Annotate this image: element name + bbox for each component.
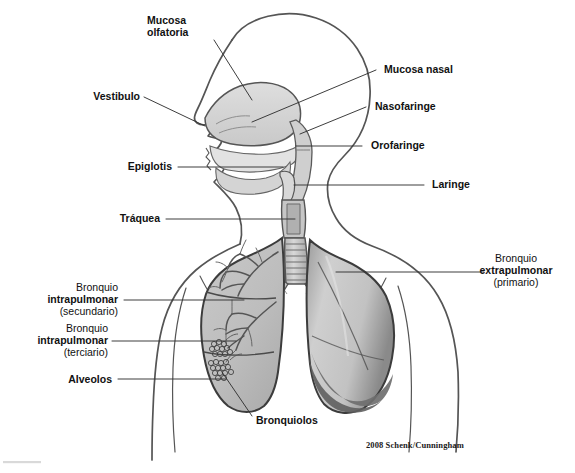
label-orofaringe: Orofaringe [371, 139, 425, 151]
label-nasofaringe: Nasofaringe [375, 100, 436, 112]
label-mucosa-olfatoria: Mucosa olfatoria [147, 14, 188, 38]
label-line: Laringe [432, 178, 470, 190]
label-traquea: Tráquea [48, 212, 160, 224]
label-line: intrapulmonar [14, 293, 118, 305]
label-alveolos: Alveolos [10, 373, 112, 385]
label-line: Mucosa nasal [384, 63, 453, 75]
label-bronquio-intrapulmonar-terciario: Bronquio intrapulmonar (terciario) [4, 322, 108, 358]
footer-rule [3, 461, 41, 463]
label-line: olfatoria [147, 26, 188, 38]
label-bronquiolos: Bronquiolos [256, 414, 318, 426]
label-bronquio-extrapulmonar: Bronquio extrapulmonar (primario) [462, 252, 570, 288]
label-line: Orofaringe [371, 139, 425, 151]
label-epiglotis: Epiglotis [58, 160, 172, 172]
label-line: (primario) [462, 276, 570, 288]
label-line: Tráquea [48, 212, 160, 224]
label-line: Bronquio [4, 322, 108, 334]
label-line: extrapulmonar [462, 264, 570, 276]
label-line: intrapulmonar [4, 334, 108, 346]
label-laringe: Laringe [432, 178, 470, 190]
label-line: Nasofaringe [375, 100, 436, 112]
nasal-cavity [205, 83, 301, 146]
lung-right [307, 240, 394, 413]
label-line: Vestibulo [28, 90, 140, 102]
label-mucosa-nasal: Mucosa nasal [384, 63, 453, 75]
label-line: Bronquio [462, 252, 570, 264]
label-line: Bronquiolos [256, 414, 318, 426]
respiratory-system-figure: Mucosa olfatoria Vestibulo Epiglotis Trá… [0, 0, 575, 473]
trachea [285, 238, 308, 284]
lung-left [201, 238, 284, 412]
body-outline [152, 14, 458, 460]
credit-text: 2008 Schenk/Cunningham [366, 440, 464, 450]
label-line: (terciario) [4, 346, 108, 358]
label-line: Mucosa [147, 14, 188, 26]
label-bronquio-intrapulmonar-secundario: Bronquio intrapulmonar (secundario) [14, 281, 118, 317]
label-line: Epiglotis [58, 160, 172, 172]
label-line: Alveolos [10, 373, 112, 385]
anatomy-illustration [0, 0, 575, 473]
label-line: (secundario) [14, 305, 118, 317]
label-line: Bronquio [14, 281, 118, 293]
label-vestibulo: Vestibulo [28, 90, 140, 102]
